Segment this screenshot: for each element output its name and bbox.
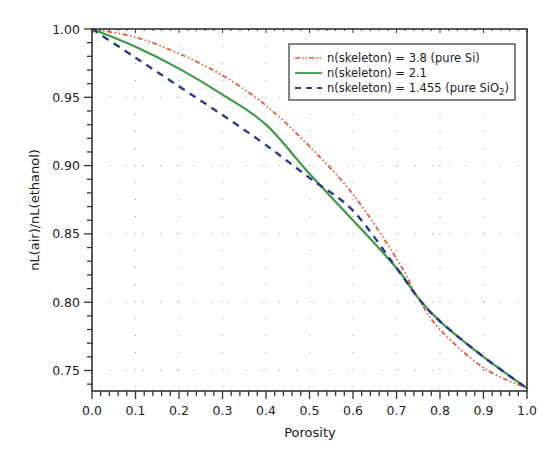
- x-tick-label: 1.0: [517, 403, 537, 418]
- x-tick-label: 0.8: [430, 403, 450, 418]
- x-tick-label: 0.6: [343, 403, 363, 418]
- x-tick-label: 0.1: [126, 403, 146, 418]
- y-tick-label: 0.95: [52, 90, 80, 105]
- x-tick-label: 0.0: [82, 403, 102, 418]
- x-axis-title: Porosity: [284, 425, 336, 440]
- chart: 0.00.10.20.30.40.50.60.70.80.91.00.750.8…: [0, 0, 557, 461]
- y-tick-label: 1.00: [52, 22, 80, 37]
- x-tick-label: 0.4: [256, 403, 276, 418]
- y-tick-label: 0.80: [52, 295, 80, 310]
- x-tick-label: 0.2: [169, 403, 189, 418]
- y-tick-label: 0.75: [52, 363, 80, 378]
- legend-label-2-1: n(skeleton) = 2.1: [327, 66, 427, 80]
- legend-label-si: n(skeleton) = 3.8 (pure Si): [327, 51, 480, 65]
- x-tick-label: 0.9: [474, 403, 494, 418]
- x-tick-label: 0.7: [387, 403, 407, 418]
- x-tick-label: 0.3: [213, 403, 233, 418]
- y-tick-label: 0.85: [52, 226, 80, 241]
- legend-item-sio2: n(skeleton) = 1.455 (pure SiO2): [295, 81, 509, 97]
- y-axis-title: nL(air)/nL(ethanol): [27, 149, 42, 271]
- y-tick-label: 0.90: [52, 158, 80, 173]
- legend-label-sio2: n(skeleton) = 1.455 (pure SiO2): [327, 81, 509, 97]
- legend: n(skeleton) = 3.8 (pure Si) n(skeleton) …: [289, 44, 515, 100]
- x-tick-label: 0.5: [300, 403, 320, 418]
